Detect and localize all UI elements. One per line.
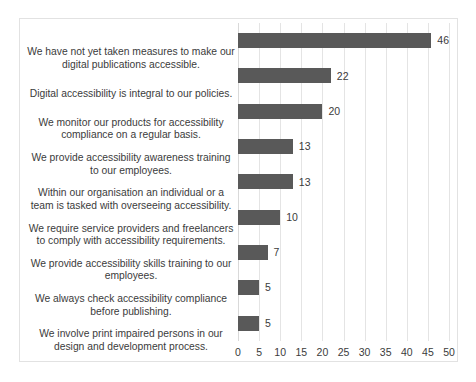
x-tick-label: 10 (274, 345, 286, 359)
category-label: We involve print impaired persons in our… (26, 323, 236, 358)
bar[interactable] (238, 139, 293, 154)
bar-row[interactable]: 10 (238, 200, 449, 235)
x-tick-label: 15 (295, 345, 307, 359)
x-tick-label: 50 (443, 345, 455, 359)
bar-row[interactable]: 13 (238, 129, 449, 164)
category-label: We require service providers and freelan… (26, 218, 236, 253)
x-tick-label: 25 (338, 345, 350, 359)
plot-area: 46 22 20 13 13 (238, 23, 449, 341)
category-label: We provide accessibility skills training… (26, 253, 236, 288)
bar-row[interactable]: 5 (238, 305, 449, 340)
x-tick-label: 0 (235, 345, 241, 359)
bar[interactable] (238, 33, 431, 48)
bar-row[interactable]: 7 (238, 235, 449, 270)
bar-row[interactable]: 20 (238, 94, 449, 129)
chart-plot-frame: We have not yet taken measures to make o… (19, 18, 458, 362)
x-tick-label: 5 (256, 345, 262, 359)
bar-row[interactable]: 46 (238, 23, 449, 58)
category-label: We provide accessibility awareness train… (26, 147, 236, 182)
category-axis-labels: We have not yet taken measures to make o… (26, 41, 236, 359)
bar[interactable] (238, 174, 293, 189)
bar[interactable] (238, 316, 259, 331)
bar-series: 46 22 20 13 13 (238, 23, 449, 341)
bar-value-label: 22 (337, 71, 349, 82)
category-label: We have not yet taken measures to make o… (26, 41, 236, 76)
bar[interactable] (238, 280, 259, 295)
figure-caption (28, 372, 448, 382)
bar-row[interactable]: 13 (238, 164, 449, 199)
bar[interactable] (238, 210, 280, 225)
bar-value-label: 20 (328, 106, 340, 117)
x-tick-label: 40 (401, 345, 413, 359)
bar-value-label: 10 (286, 212, 298, 223)
category-label: Within our organisation an individual or… (26, 182, 236, 217)
category-label: Digital accessibility is integral to our… (26, 76, 236, 111)
x-tick-label: 35 (380, 345, 392, 359)
bar-row[interactable]: 22 (238, 58, 449, 93)
bar-value-label: 13 (299, 141, 311, 152)
x-axis-tick-labels: 05101520253035404550 (238, 345, 449, 361)
bar-value-label: 7 (274, 247, 280, 258)
bar[interactable] (238, 245, 268, 260)
bar-value-label: 13 (299, 177, 311, 188)
x-tick-label: 45 (422, 345, 434, 359)
x-tick-label: 30 (359, 345, 371, 359)
bar-chart-figure: We have not yet taken measures to make o… (0, 0, 476, 382)
bar-row[interactable]: 5 (238, 270, 449, 305)
bar[interactable] (238, 104, 322, 119)
bar-value-label: 46 (437, 35, 449, 46)
bar-value-label: 5 (265, 318, 271, 329)
x-tick-label: 20 (317, 345, 329, 359)
category-label: We monitor our products for accessibilit… (26, 112, 236, 147)
bar-value-label: 5 (265, 282, 271, 293)
gridline (449, 23, 450, 341)
category-label: We always check accessibility compliance… (26, 288, 236, 323)
bar[interactable] (238, 68, 331, 83)
